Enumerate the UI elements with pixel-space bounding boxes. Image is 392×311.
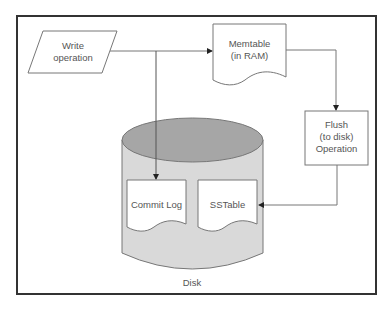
disk-cylinder-top — [122, 118, 263, 162]
flush-label: Flush (to disk) Operation — [305, 119, 368, 155]
flush-line1: Flush — [305, 119, 368, 131]
sstable-label: SSTable — [198, 199, 257, 211]
memtable-label: Memtable (in RAM) — [213, 38, 286, 62]
commit-log-label: Commit Log — [127, 199, 186, 211]
write-operation-line1: Write — [40, 40, 106, 52]
write-operation-label: Write operation — [40, 40, 106, 64]
flush-line3: Operation — [305, 143, 368, 155]
write-operation-line2: operation — [40, 52, 106, 64]
edge-memtable-to-flush — [286, 50, 336, 110]
disk-label: Disk — [162, 277, 222, 289]
edge-flush-to-sstable — [259, 165, 337, 205]
flush-line2: (to disk) — [305, 131, 368, 143]
memtable-line2: (in RAM) — [213, 50, 286, 62]
memtable-line1: Memtable — [213, 38, 286, 50]
